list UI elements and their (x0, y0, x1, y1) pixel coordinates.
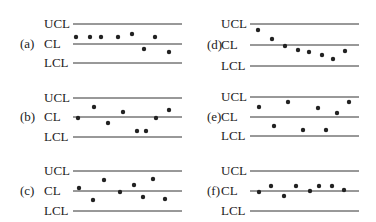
panel-b-label: (b) (20, 109, 35, 124)
panel-b-data-point (76, 116, 80, 120)
panel-d-data-point (343, 49, 347, 53)
panel-f-data-point (294, 184, 298, 188)
panel-c-cl-label: CL (44, 183, 61, 198)
panel-d-data-point (331, 57, 335, 61)
panel-f-data-point (342, 188, 346, 192)
panel-d-lcl-label: LCL (221, 58, 246, 73)
panel-c-data-point (141, 195, 145, 199)
panel-e-data-point (347, 100, 351, 104)
panel-c-label: (c) (20, 183, 34, 198)
panel-d-ucl-label: UCL (221, 16, 247, 31)
panel-c-data-point (77, 186, 81, 190)
panel-e-data-point (301, 128, 305, 132)
panel-a-data-point (116, 35, 120, 39)
panel-f-label: (f) (207, 183, 220, 198)
panel-c-data-point (132, 183, 136, 187)
panel-b-data-point (106, 121, 110, 125)
panel-e-data-point (316, 106, 320, 110)
panel-b-data-point (135, 129, 139, 133)
panel-f-data-point (330, 184, 334, 188)
panel-b-data-point (167, 108, 171, 112)
panel-c-lcl-label: LCL (44, 203, 69, 218)
panel-b-data-point (121, 110, 125, 114)
panel-a-data-point (99, 35, 103, 39)
panel-d-data-point (270, 37, 274, 41)
panel-e-data-point (324, 128, 328, 132)
panel-d-data-point (256, 28, 260, 32)
panel-c-data-point (118, 190, 122, 194)
panel-a-label: (a) (20, 36, 34, 51)
panel-f-cl-label: CL (221, 183, 238, 198)
panel-e-label: (e) (207, 109, 221, 124)
panel-b-data-point (154, 116, 158, 120)
control-chart-patterns: (a)UCLCLLCL(b)UCLCLLCL(c)UCLCLLCL(d)UCLC… (0, 0, 376, 222)
panel-e-cl-label: CL (221, 109, 238, 124)
panel-c-ucl-label: UCL (44, 163, 70, 178)
panel-a-data-point (167, 50, 171, 54)
panel-d-data-point (283, 44, 287, 48)
panel-a-data-point (142, 47, 146, 51)
panel-c-data-point (163, 197, 167, 201)
panel-e-data-point (257, 105, 261, 109)
panel-b-lcl-label: LCL (44, 129, 69, 144)
panel-a-data-point (153, 35, 157, 39)
panel-a-ucl-label: UCL (44, 16, 70, 31)
panel-f-ucl-label: UCL (221, 163, 247, 178)
panel-e-data-point (335, 111, 339, 115)
panel-e-lcl-label: LCL (221, 128, 246, 143)
panel-f-data-point (308, 189, 312, 193)
panel-f-data-point (282, 194, 286, 198)
panel-a-data-point (130, 32, 134, 36)
panel-a-cl-label: CL (44, 36, 61, 51)
panel-f-lcl-label: LCL (221, 203, 246, 218)
panel-f-data-point (257, 190, 261, 194)
panel-a-data-point (88, 35, 92, 39)
panel-b-cl-label: CL (44, 109, 61, 124)
panel-b-ucl-label: UCL (44, 90, 70, 105)
panel-f-data-point (317, 184, 321, 188)
panel-d-data-point (307, 50, 311, 54)
panel-d-data-point (320, 53, 324, 57)
panel-d-label: (d) (207, 37, 222, 52)
panel-a-data-point (74, 35, 78, 39)
panel-b-data-point (92, 105, 96, 109)
panel-f-data-point (269, 184, 273, 188)
panel-a-lcl-label: LCL (44, 55, 69, 70)
panel-d-cl-label: CL (221, 37, 238, 52)
panel-e-data-point (286, 100, 290, 104)
panel-d-data-point (296, 48, 300, 52)
panel-b-data-point (144, 129, 148, 133)
panel-c-data-point (102, 178, 106, 182)
panel-e-data-point (272, 124, 276, 128)
panel-c-data-point (151, 177, 155, 181)
panel-e-ucl-label: UCL (221, 89, 247, 104)
panel-c-data-point (91, 198, 95, 202)
